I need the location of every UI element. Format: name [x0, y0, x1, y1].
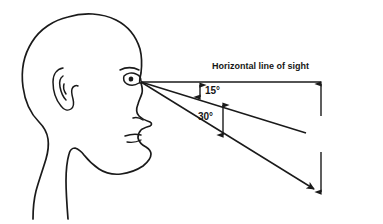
angle-15-label: 15°: [205, 85, 220, 96]
head-outline: [22, 14, 151, 219]
sight-lines: [141, 82, 321, 189]
thirty-degree-ray: [141, 82, 314, 189]
horizontal-line-of-sight-label: Horizontal line of sight: [212, 61, 309, 72]
eyebrow: [120, 68, 139, 70]
pupil: [129, 76, 134, 81]
angle-30-label: 30°: [198, 111, 213, 122]
ear-outline: [53, 68, 78, 110]
viewing-area-diagram: Horizontal line of sight 15° 30° Preferr…: [0, 0, 383, 224]
head-profile: [22, 14, 151, 219]
diagram-svg: [0, 0, 383, 224]
